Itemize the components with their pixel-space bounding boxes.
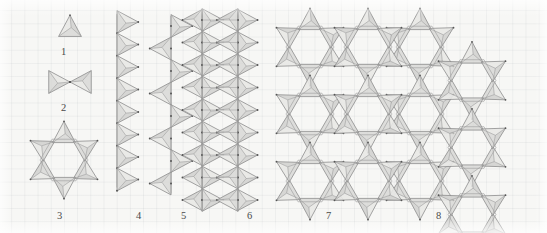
tetrahedron [117, 33, 139, 56]
chain-link-vertex [170, 160, 172, 162]
vertex-dot [401, 161, 403, 163]
tetrahedron [438, 60, 463, 81]
vertex-dot [505, 166, 507, 168]
tetrahedron [117, 168, 139, 191]
tetrahedron [30, 159, 55, 180]
vertex-dot [438, 60, 440, 62]
vertex-dot [309, 219, 311, 221]
tetrahedron [238, 122, 258, 143]
tetrahedron [438, 127, 463, 148]
vertex-dot [471, 175, 473, 177]
vertex-dot [257, 109, 259, 111]
tetrahedron [276, 94, 301, 115]
tetrahedron [238, 145, 258, 166]
motif-label-3: 3 [57, 211, 62, 222]
tetrahedron [238, 100, 258, 121]
tetrahedron [149, 127, 171, 150]
vertex-dot [149, 48, 151, 50]
vertex-dot [438, 127, 440, 129]
tetrahedron [276, 180, 301, 201]
vertex-dot [182, 177, 184, 179]
tetrahedron [429, 27, 454, 48]
motif-label-5: 5 [181, 211, 186, 222]
vertex-dot [401, 65, 403, 67]
tetrahedron [481, 194, 506, 215]
tetrahedron [238, 190, 258, 211]
motif-label-8: 8 [436, 211, 441, 222]
vertex-dot [30, 140, 32, 142]
tetrahedron [238, 32, 258, 53]
vertex-dot [334, 94, 336, 96]
vertex-dot [505, 60, 507, 62]
vertex-dot [419, 7, 421, 9]
chain-link-vertex [170, 70, 172, 72]
tetrahedron [481, 60, 506, 81]
motif-4-single-chain-same-side [116, 11, 139, 192]
vertex-dot [137, 156, 139, 158]
tetrahedron [438, 194, 463, 215]
vertex-dot [137, 44, 139, 46]
motif-7-star-column-fused-rings [276, 7, 345, 220]
vertex-dot [257, 199, 259, 201]
vertex-dot [182, 199, 184, 201]
vertex-dot [30, 178, 32, 180]
tetrahedron [182, 32, 202, 53]
vertex-dot [182, 19, 184, 21]
figure-canvas: 12345678 [0, 0, 547, 233]
chain-link-vertex [170, 48, 172, 50]
vertex-dot [97, 140, 99, 142]
vertex-dot [276, 132, 278, 134]
chain-link-vertex [170, 138, 172, 140]
tetrahedron [238, 10, 258, 31]
tetrahedron [276, 27, 301, 48]
motif-label-7: 7 [326, 211, 331, 222]
tetrahedron [69, 71, 91, 94]
vertex-dot [438, 194, 440, 196]
vertex-dot [471, 41, 473, 43]
vertex-dot [401, 27, 403, 29]
motif-label-1: 1 [61, 47, 66, 58]
tetrahedron [481, 127, 506, 148]
vertex-dot [334, 199, 336, 201]
vertex-dot [334, 132, 336, 134]
shared-vertex [69, 81, 71, 83]
vertex-dot [309, 74, 311, 76]
motif-1-isolated-tetrahedron [59, 14, 82, 36]
vertex-dot [257, 177, 259, 179]
chain-link-vertex [170, 93, 172, 95]
vertex-dot [137, 89, 139, 91]
vertex-dot [505, 99, 507, 101]
motif-label-4: 4 [136, 211, 141, 222]
tetrahedron [438, 213, 463, 233]
vertex-dot [137, 21, 139, 23]
tetrahedron [73, 159, 98, 180]
vertex-dot [453, 27, 455, 29]
vertex-dot [309, 7, 311, 9]
vertex-dot [63, 120, 65, 122]
vertex-dot [257, 154, 259, 156]
motif-2-corner-sharing-dimer [49, 71, 92, 94]
motif-label-6: 6 [247, 211, 252, 222]
tetrahedron [149, 82, 171, 105]
vertex-dot [276, 199, 278, 201]
tetrahedron [238, 167, 258, 188]
vertex-dot [97, 178, 99, 180]
vertex-dot [401, 132, 403, 134]
tetrahedron [182, 167, 202, 188]
vertex-dot [63, 198, 65, 200]
vertex-dot [334, 65, 336, 67]
tetrahedron [461, 232, 484, 233]
vertex-dot [149, 183, 151, 185]
vertex-dot [137, 179, 139, 181]
vertex-dot [401, 199, 403, 201]
vertex-dot [438, 166, 440, 168]
vertex-dot [257, 132, 259, 134]
vertex-dot [367, 74, 369, 76]
vertex-dot [182, 132, 184, 134]
tetrahedron [276, 113, 301, 134]
vertex-dot [182, 64, 184, 66]
tetrahedron [117, 56, 139, 79]
tetrahedron [481, 213, 506, 233]
vertex-dot [334, 161, 336, 163]
vertex-dot [505, 127, 507, 129]
